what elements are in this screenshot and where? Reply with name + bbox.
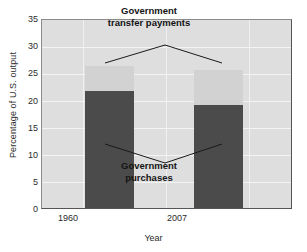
y-tick-25: 25	[12, 68, 38, 78]
annotation-transfer-payments: Government transfer payments	[74, 5, 224, 28]
bar-2007-transfer-segment[interactable]	[194, 70, 243, 105]
bar-1960[interactable]	[85, 66, 134, 208]
x-tick-1960: 1960	[38, 213, 98, 223]
bar-2007[interactable]	[194, 70, 243, 208]
y-tick-35: 35	[12, 14, 38, 24]
annotation-transfer-line2: transfer payments	[74, 17, 224, 29]
annotation-government-purchases: Government purchases	[74, 160, 224, 183]
chart-figure: Percentage of U.S. output 35 30 25 20 15…	[0, 0, 307, 252]
annotation-purchases-line2: purchases	[74, 172, 224, 184]
y-tick-30: 30	[12, 41, 38, 51]
bar-1960-transfer-segment[interactable]	[85, 66, 134, 90]
x-axis-title: Year	[0, 233, 307, 243]
vgridline-3	[249, 20, 250, 208]
x-tick-2007: 2007	[147, 213, 207, 223]
y-axis-ticks: 35 30 25 20 15 10 5 0	[8, 0, 38, 252]
y-tick-0: 0	[12, 204, 38, 214]
y-tick-5: 5	[12, 177, 38, 187]
y-tick-20: 20	[12, 96, 38, 106]
annotation-purchases-line1: Government	[74, 160, 224, 172]
bar-1960-purchases-segment[interactable]	[85, 91, 134, 208]
annotation-transfer-line1: Government	[74, 5, 224, 17]
y-tick-10: 10	[12, 150, 38, 160]
bar-2007-purchases-segment[interactable]	[194, 105, 243, 208]
y-tick-15: 15	[12, 123, 38, 133]
